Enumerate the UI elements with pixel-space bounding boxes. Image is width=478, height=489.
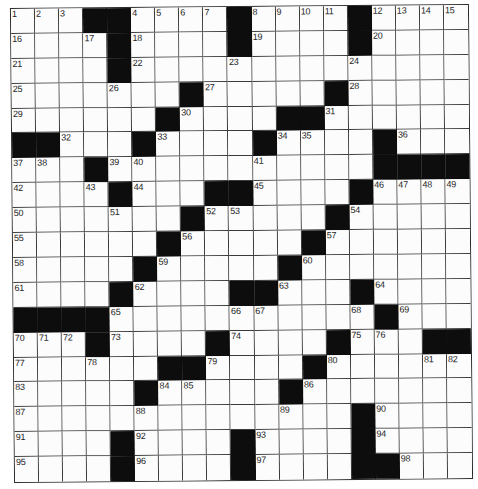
numbered-cell[interactable]: 59 [157,256,181,281]
numbered-cell[interactable]: 25 [12,83,36,108]
numbered-cell[interactable]: 42 [12,183,36,208]
answer-cell[interactable] [351,379,375,404]
answer-cell[interactable] [278,330,302,355]
answer-cell[interactable] [183,455,207,480]
answer-cell[interactable] [109,232,133,257]
answer-cell[interactable] [206,306,230,331]
numbered-cell[interactable]: 36 [397,130,421,155]
numbered-cell[interactable]: 57 [326,230,350,255]
answer-cell[interactable] [397,205,421,230]
answer-cell[interactable] [422,204,446,229]
numbered-cell[interactable]: 98 [400,454,424,479]
answer-cell[interactable] [87,406,111,431]
answer-cell[interactable] [85,282,109,307]
answer-cell[interactable] [63,407,87,432]
answer-cell[interactable] [302,280,326,305]
answer-cell[interactable] [374,255,398,280]
numbered-cell[interactable]: 11 [324,6,348,31]
numbered-cell[interactable]: 17 [83,33,107,58]
answer-cell[interactable] [254,355,278,380]
numbered-cell[interactable]: 10 [300,6,324,31]
numbered-cell[interactable]: 46 [373,180,397,205]
answer-cell[interactable] [156,57,180,82]
numbered-cell[interactable]: 75 [350,329,374,354]
answer-cell[interactable] [300,31,324,56]
answer-cell[interactable] [60,158,84,183]
answer-cell[interactable] [421,130,445,155]
answer-cell[interactable] [447,378,471,403]
answer-cell[interactable] [62,382,86,407]
answer-cell[interactable] [207,455,231,480]
answer-cell[interactable] [300,81,324,106]
numbered-cell[interactable]: 49 [445,179,469,204]
answer-cell[interactable] [396,30,420,55]
answer-cell[interactable] [445,105,469,130]
numbered-cell[interactable]: 26 [108,83,132,108]
answer-cell[interactable] [37,233,61,258]
numbered-cell[interactable]: 15 [444,5,468,30]
answer-cell[interactable] [255,405,279,430]
answer-cell[interactable] [62,357,86,382]
answer-cell[interactable] [228,82,252,107]
answer-cell[interactable] [85,257,109,282]
answer-cell[interactable] [207,405,231,430]
answer-cell[interactable] [424,453,448,478]
numbered-cell[interactable]: 56 [181,231,205,256]
numbered-cell[interactable]: 41 [253,156,277,181]
answer-cell[interactable] [204,32,228,57]
answer-cell[interactable] [134,306,158,331]
answer-cell[interactable] [445,129,469,154]
numbered-cell[interactable]: 30 [180,107,204,132]
answer-cell[interactable] [326,280,350,305]
answer-cell[interactable] [375,379,399,404]
answer-cell[interactable] [448,453,472,478]
answer-cell[interactable] [423,379,447,404]
numbered-cell[interactable]: 37 [12,158,36,183]
answer-cell[interactable] [134,356,158,381]
answer-cell[interactable] [399,429,423,454]
answer-cell[interactable] [133,232,157,257]
answer-cell[interactable] [158,331,182,356]
answer-cell[interactable] [35,58,59,83]
answer-cell[interactable] [301,181,325,206]
answer-cell[interactable] [38,357,62,382]
answer-cell[interactable] [420,80,444,105]
answer-cell[interactable] [422,304,446,329]
answer-cell[interactable] [328,454,352,479]
answer-cell[interactable] [86,382,110,407]
answer-cell[interactable] [253,231,277,256]
answer-cell[interactable] [444,30,468,55]
answer-cell[interactable] [277,181,301,206]
numbered-cell[interactable]: 27 [204,82,228,107]
answer-cell[interactable] [84,58,108,83]
answer-cell[interactable] [446,254,470,279]
numbered-cell[interactable]: 18 [131,33,155,58]
answer-cell[interactable] [230,256,254,281]
numbered-cell[interactable]: 79 [206,356,230,381]
answer-cell[interactable] [303,454,327,479]
answer-cell[interactable] [277,156,301,181]
answer-cell[interactable] [255,380,279,405]
numbered-cell[interactable]: 77 [14,357,38,382]
answer-cell[interactable] [38,407,62,432]
numbered-cell[interactable]: 65 [110,307,134,332]
answer-cell[interactable] [134,331,158,356]
answer-cell[interactable] [372,80,396,105]
answer-cell[interactable] [254,256,278,281]
answer-cell[interactable] [228,131,252,156]
answer-cell[interactable] [446,304,470,329]
answer-cell[interactable] [206,281,230,306]
numbered-cell[interactable]: 6 [179,7,203,32]
answer-cell[interactable] [39,457,63,482]
answer-cell[interactable] [59,58,83,83]
numbered-cell[interactable]: 48 [421,179,445,204]
answer-cell[interactable] [276,81,300,106]
answer-cell[interactable] [182,281,206,306]
answer-cell[interactable] [375,354,399,379]
answer-cell[interactable] [302,305,326,330]
numbered-cell[interactable]: 78 [86,357,110,382]
answer-cell[interactable] [325,180,349,205]
answer-cell[interactable] [420,30,444,55]
numbered-cell[interactable]: 7 [203,7,227,32]
numbered-cell[interactable]: 12 [372,6,396,31]
